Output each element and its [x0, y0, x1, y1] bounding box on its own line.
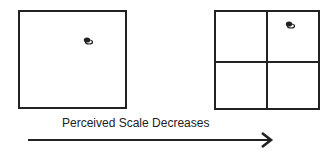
object-glyph-icon: [82, 36, 94, 46]
object-glyph-icon: [284, 20, 296, 30]
single-cell-square: [18, 10, 127, 109]
vertical-divider: [266, 12, 268, 108]
four-cell-square: [214, 10, 320, 110]
arrow-label: Perceived Scale Decreases: [62, 116, 209, 130]
right-arrow-icon: [26, 130, 276, 150]
horizontal-divider: [216, 61, 318, 63]
